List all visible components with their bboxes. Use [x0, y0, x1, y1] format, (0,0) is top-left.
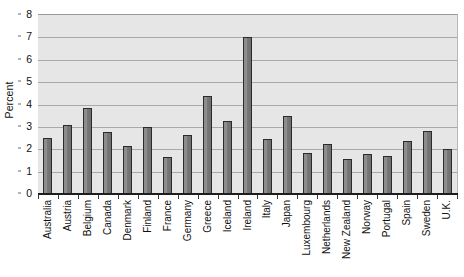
bar[interactable]	[423, 131, 432, 194]
x-axis-label-slot: Luxembourg	[297, 200, 317, 274]
x-axis-tick-mark	[457, 195, 458, 199]
x-axis-tick-mark	[297, 195, 298, 199]
x-axis-label-slot: Japan	[277, 200, 297, 274]
y-axis-tick-label: 1	[26, 165, 32, 176]
y-axis-tick-mark	[18, 193, 21, 194]
bar-slot	[297, 15, 317, 194]
x-axis-category-label: Japan	[282, 200, 292, 227]
bar[interactable]	[243, 37, 252, 194]
x-axis-label-slot: Denmark	[118, 200, 138, 274]
bar[interactable]	[143, 127, 152, 194]
y-axis-tick-mark	[18, 58, 21, 59]
x-axis-category-label: Denmark	[123, 200, 133, 241]
y-axis-tick-label: 3	[26, 121, 32, 132]
bar[interactable]	[103, 132, 112, 194]
bar[interactable]	[443, 149, 452, 194]
y-axis-tick-label: 8	[26, 9, 32, 20]
x-axis-tick-mark	[238, 195, 239, 199]
x-axis-tick-mark	[397, 195, 398, 199]
x-axis-category-label: Greece	[203, 200, 213, 233]
bar[interactable]	[83, 108, 92, 194]
x-axis-tick-mark	[178, 195, 179, 199]
bar[interactable]	[123, 146, 132, 194]
x-axis-tick-mark	[357, 195, 358, 199]
x-axis-label-slot: France	[158, 200, 178, 274]
bar[interactable]	[63, 125, 72, 194]
x-axis-tick-mark	[337, 195, 338, 199]
x-axis-label-slot: Ireland	[238, 200, 258, 274]
y-axis-tick-mark	[18, 36, 21, 37]
bar[interactable]	[283, 116, 292, 194]
bar[interactable]	[263, 139, 272, 194]
x-axis-category-label: U.K.	[442, 200, 452, 219]
x-axis-tick-mark	[317, 195, 318, 199]
bar-slot	[317, 15, 337, 194]
bar-slot	[218, 15, 238, 194]
bar[interactable]	[343, 159, 352, 194]
y-axis-tick-label: 4	[26, 98, 32, 109]
x-axis-category-label: Italy	[262, 200, 272, 218]
bar-slot	[138, 15, 158, 194]
bar[interactable]	[363, 154, 372, 194]
x-axis-tick-marks	[38, 195, 457, 199]
bar[interactable]	[403, 141, 412, 194]
bar-slot	[437, 15, 457, 194]
bar-slot	[337, 15, 357, 194]
bar-slot	[178, 15, 198, 194]
bar-slot	[277, 15, 297, 194]
y-axis-tick-label: 7	[26, 31, 32, 42]
bar-slot	[397, 15, 417, 194]
x-axis-category-label: Luxembourg	[302, 200, 312, 256]
x-axis-label-slot: Italy	[257, 200, 277, 274]
bar[interactable]	[303, 153, 312, 194]
x-axis-category-label: Australia	[43, 200, 53, 239]
bar[interactable]	[383, 156, 392, 194]
bar-slot	[38, 15, 58, 194]
x-axis-category-label: France	[163, 200, 173, 231]
x-axis-category-label: Iceland	[223, 200, 233, 232]
bar[interactable]	[163, 157, 172, 194]
bar-slot	[78, 15, 98, 194]
x-axis-tick-mark	[257, 195, 258, 199]
bar-slot	[238, 15, 258, 194]
x-axis-label-slot: Australia	[38, 200, 58, 274]
x-axis-tick-mark	[138, 195, 139, 199]
x-axis-label-slot: Germany	[178, 200, 198, 274]
bar-slot	[417, 15, 437, 194]
y-axis-tick-mark	[18, 81, 21, 82]
bar[interactable]	[223, 121, 232, 194]
bar[interactable]	[183, 135, 192, 194]
plot-area	[38, 14, 458, 194]
x-axis-label-slot: Iceland	[218, 200, 238, 274]
x-axis-label-slot: Netherlands	[317, 200, 337, 274]
x-axis-category-label: Ireland	[243, 200, 253, 231]
x-axis-tick-mark	[38, 195, 39, 199]
bar[interactable]	[203, 96, 212, 194]
x-axis-label-slot: Norway	[357, 200, 377, 274]
bars-container	[38, 15, 457, 194]
bar[interactable]	[43, 138, 52, 194]
x-axis-tick-mark	[437, 195, 438, 199]
y-axis-tick-label: 0	[26, 188, 32, 199]
x-axis-category-label: Germany	[183, 200, 193, 241]
x-axis-category-label: Netherlands	[322, 200, 332, 254]
y-axis-tick-mark	[18, 148, 21, 149]
bar-slot	[98, 15, 118, 194]
y-axis-title-label: Percent	[3, 82, 15, 119]
x-axis-label-slot: Sweden	[417, 200, 437, 274]
y-axis-tick-mark	[18, 125, 21, 126]
x-axis-tick-mark	[198, 195, 199, 199]
y-axis-tick-mark	[18, 14, 21, 15]
x-axis-label-slot: Greece	[198, 200, 218, 274]
x-axis-label-slot: Finland	[138, 200, 158, 274]
x-axis-tick-mark	[158, 195, 159, 199]
x-axis-category-label: Sweden	[422, 200, 432, 236]
x-axis-label-slot: Belgium	[78, 200, 98, 274]
x-axis-label-slot: Austria	[58, 200, 78, 274]
x-axis-label-slot: Portugal	[377, 200, 397, 274]
x-axis-tick-mark	[377, 195, 378, 199]
bar[interactable]	[323, 144, 332, 194]
y-axis-tick-label: 6	[26, 54, 32, 65]
x-axis-label-slot: New Zealand	[337, 200, 357, 274]
x-axis-tick-mark	[417, 195, 418, 199]
